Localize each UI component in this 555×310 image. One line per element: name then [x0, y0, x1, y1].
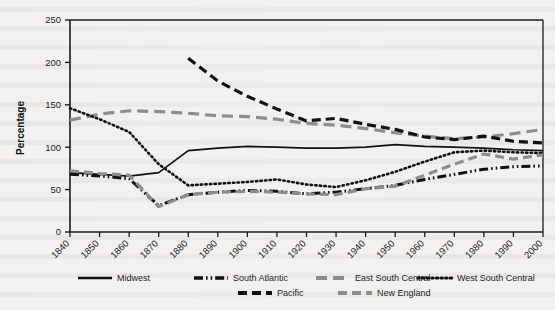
- legend-item-midwest: Midwest: [78, 273, 151, 283]
- y-tick-label: 150: [45, 99, 61, 110]
- legend-item-west-south-central: West South Central: [418, 273, 535, 283]
- series-line-pacific: [188, 58, 543, 143]
- legend-item-pacific: Pacific: [238, 288, 304, 298]
- axis-lines: [70, 20, 543, 232]
- x-tick-label: 1940: [344, 238, 367, 261]
- x-tick-label: 1930: [315, 238, 338, 261]
- legend-label: West South Central: [457, 273, 535, 283]
- x-tick-label: 1910: [256, 238, 279, 261]
- legend-label: South Atlantic: [233, 273, 289, 283]
- series-line-midwest: [70, 145, 543, 176]
- y-tick-label: 100: [45, 142, 61, 153]
- x-tick-label: 1870: [137, 238, 160, 261]
- x-tick-label: 1990: [492, 238, 515, 261]
- x-tick-label: 1970: [433, 238, 456, 261]
- x-axis-ticks: 1840185018601870188018901900191019201930…: [49, 232, 545, 260]
- legend-item-south-atlantic: South Atlantic: [194, 273, 289, 283]
- legend-label: New England: [377, 288, 431, 298]
- legend-label: Midwest: [117, 273, 151, 283]
- x-tick-label: 2000: [522, 238, 545, 261]
- y-tick-label: 0: [56, 226, 61, 237]
- y-axis-ticks: 050100150200250: [45, 14, 70, 237]
- y-tick-label: 250: [45, 14, 61, 25]
- series-line-east-south-central: [70, 111, 543, 139]
- x-tick-label: 1840: [49, 238, 72, 261]
- y-axis-title-label: Percentage: [15, 101, 26, 155]
- x-tick-label: 1900: [226, 238, 249, 261]
- y-tick-label: 200: [45, 57, 61, 68]
- x-tick-label: 1960: [403, 238, 426, 261]
- data-series-group: [70, 58, 543, 206]
- y-tick-label: 50: [50, 184, 61, 195]
- legend-label: Pacific: [277, 288, 304, 298]
- series-line-new-england: [70, 154, 543, 207]
- chart-canvas: Percentage 050100150200250 1840185018601…: [0, 0, 555, 310]
- x-tick-label: 1850: [78, 238, 101, 261]
- x-tick-label: 1880: [167, 238, 190, 261]
- line-chart: Percentage 050100150200250 1840185018601…: [0, 0, 555, 310]
- x-tick-label: 1920: [285, 238, 308, 261]
- x-tick-label: 1950: [374, 238, 397, 261]
- chart-legend: MidwestSouth AtlanticEast South CentralW…: [78, 273, 535, 298]
- x-tick-label: 1860: [108, 238, 131, 261]
- legend-item-east-south-central: East South Central: [316, 273, 431, 283]
- y-axis-title: Percentage: [15, 101, 26, 155]
- x-tick-label: 1980: [463, 238, 486, 261]
- x-tick-label: 1890: [196, 238, 219, 261]
- legend-item-new-england: New England: [338, 288, 431, 298]
